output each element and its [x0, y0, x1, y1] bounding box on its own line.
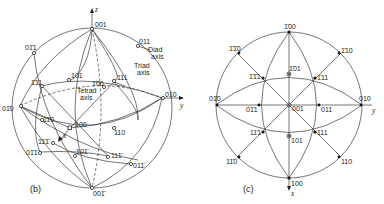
meridian-back — [92, 29, 101, 188]
z-arrow-icon — [90, 8, 94, 13]
pole-1-1-1 — [51, 141, 54, 144]
x-axis-label: x — [290, 189, 295, 198]
label-101: 101 — [71, 72, 83, 79]
label--100: 1̄00 — [284, 23, 296, 30]
label-110: 110 — [114, 129, 125, 136]
label-1-11: 11̄1 — [250, 129, 261, 136]
label-111: 111 — [317, 129, 328, 136]
diad-label-2: axis — [151, 53, 164, 60]
x-axis-label: x — [62, 131, 67, 140]
pole-100 — [68, 126, 71, 129]
y-arrow-icon — [179, 96, 184, 100]
label-001: 001 — [292, 105, 304, 112]
label-100: 100 — [75, 121, 87, 128]
y-axis-label: y — [179, 101, 184, 110]
triad-label-2: axis — [137, 69, 150, 76]
label-11-1: 111̄ — [111, 152, 123, 159]
arc-8 — [20, 106, 92, 188]
meridian-front — [75, 29, 92, 188]
diad-label: Diad — [148, 46, 163, 53]
pole-1-10 — [238, 156, 241, 159]
label--1-11: 1̄1̄1 — [249, 73, 261, 80]
label-100: 100 — [291, 180, 303, 187]
figure-b: z y x 001 011 01̄1 1̄11 101 1̄00 111 01̄… — [2, 5, 184, 197]
label--111: 1̄11 — [31, 79, 42, 86]
pole--101-dot — [288, 73, 290, 75]
label-011: 011 — [139, 38, 150, 45]
pole--100 — [287, 30, 290, 33]
label-0-1-1: 01̄1̄ — [26, 149, 39, 156]
figure-c: 1̄00 1̄1̄0 1̄10 1̄01 1̄1̄1 1̄11 01̄0 010… — [209, 23, 376, 198]
pole-0-10 — [216, 104, 219, 107]
label-001: 001 — [95, 21, 107, 28]
pole-011 — [318, 104, 321, 107]
triad-label: Triad — [134, 62, 150, 69]
label-1-10: 11̄0 — [226, 158, 237, 165]
arc-13 — [92, 98, 162, 188]
pole-001-dot — [288, 104, 290, 106]
label-1-10: 11̄0 — [43, 116, 54, 123]
label-0-11: 01̄1 — [25, 44, 37, 51]
label--111: 1̄11 — [317, 74, 328, 81]
pole-11-1 — [106, 155, 109, 158]
arc-3 — [92, 29, 138, 120]
label-10-1: 101̄ — [76, 148, 89, 155]
pole-1-11 — [261, 130, 264, 133]
caption-c: (c) — [243, 184, 254, 194]
tetrad-label: Tetrad — [77, 87, 97, 94]
label-0-10: 01̄0 — [2, 105, 14, 112]
pole-101-dot — [288, 135, 290, 137]
pole--1-10 — [238, 52, 241, 55]
label--100: 1̄00 — [92, 80, 104, 87]
pole-001 — [90, 27, 93, 30]
label--1-10: 1̄1̄0 — [229, 45, 241, 52]
arc-2 — [92, 29, 117, 80]
label-1-1-1: 11̄1̄ — [38, 138, 50, 145]
pole-110 — [338, 156, 341, 159]
pole-111 — [112, 79, 115, 82]
label-0-11: 01̄1 — [246, 106, 258, 113]
tetrad-label-2: axis — [80, 94, 93, 101]
label-0-10: 01̄0 — [209, 95, 221, 102]
pole--110 — [338, 52, 341, 55]
pole-0-11 — [258, 104, 261, 107]
diagram-canvas: z y x 001 011 01̄1 1̄11 101 1̄00 111 01̄… — [0, 0, 384, 204]
z-axis-label: z — [94, 5, 98, 14]
label--101: 1̄01 — [289, 65, 301, 72]
label-111: 111 — [117, 74, 128, 81]
label-00-1: 001̄ — [93, 190, 106, 197]
label-011: 011 — [321, 106, 332, 113]
caption-b: (b) — [30, 184, 41, 194]
pole-0-11 — [32, 51, 35, 54]
label-01-1: 011̄ — [133, 162, 145, 169]
pole-010 — [360, 104, 363, 107]
label-010: 010 — [165, 91, 177, 98]
label--110: 1̄10 — [341, 47, 353, 54]
pole-0-10 — [19, 104, 22, 107]
label-110: 110 — [341, 158, 352, 165]
label-010: 010 — [359, 95, 371, 102]
pole--1-11 — [261, 76, 264, 79]
label-101: 101 — [291, 137, 303, 144]
y-axis-label: y — [371, 106, 376, 115]
pole-0-1-1 — [38, 151, 41, 154]
